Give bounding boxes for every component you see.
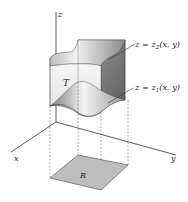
triple-integral-diagram: z x y T R z = z2(x, y) z = z1(x, y) <box>0 0 188 202</box>
upper-surface-label: z = z2(x, y) <box>134 39 180 50</box>
region-R <box>50 155 128 190</box>
y-axis-label: y <box>170 154 176 163</box>
x-axis <box>11 122 56 152</box>
z-axis-label: z <box>57 10 63 19</box>
lower-surface-label: z = z1(x, y) <box>134 82 180 93</box>
region-label-R: R <box>79 171 86 180</box>
solid-T <box>50 40 125 117</box>
y-axis <box>56 122 176 155</box>
solid-label-T: T <box>63 78 70 88</box>
x-axis-label: x <box>14 154 19 163</box>
